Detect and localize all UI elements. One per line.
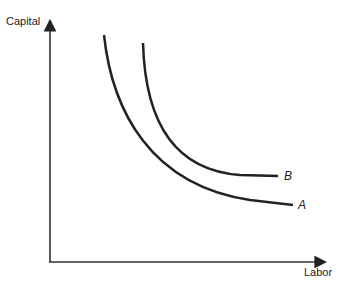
- x-axis-label: Labor: [304, 266, 332, 278]
- y-axis-label: Capital: [6, 15, 40, 27]
- chart-canvas: [0, 0, 340, 286]
- curve-a: [104, 35, 293, 205]
- curve-b-label: B: [284, 169, 292, 183]
- curve-b: [143, 43, 278, 176]
- curve-a-label: A: [298, 198, 306, 212]
